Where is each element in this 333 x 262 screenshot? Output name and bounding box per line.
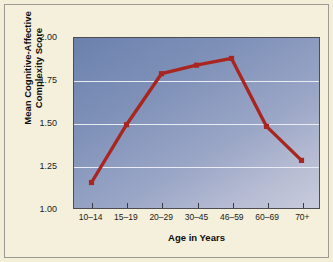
x-tick-mark [127,203,128,208]
x-tick-label: 10–14 [79,212,103,222]
x-tick-mark [92,203,93,208]
data-point-marker [299,158,304,163]
x-tick-mark [233,203,234,208]
data-point-marker [89,180,94,185]
data-point-marker [229,56,234,61]
x-tick-mark [198,203,199,208]
y-axis-title-line1: Mean Cognitive-Affective [22,11,33,125]
y-axis-title-line2: Complexity Score [33,0,44,143]
y-tick-label: 1.00 [17,204,57,214]
data-point-marker [264,124,269,129]
x-tick-mark [303,203,304,208]
series-markers [89,56,304,185]
data-point-marker [124,122,129,127]
line-series-svg [74,38,319,208]
plot-area [73,37,320,209]
x-axis-title: Age in Years [73,232,320,243]
x-tick-label: 60–69 [255,212,279,222]
x-tick-label: 20–29 [149,212,173,222]
x-tick-label: 46–59 [220,212,244,222]
data-point-marker [194,63,199,68]
y-axis-title: Mean Cognitive-Affective Complexity Scor… [22,0,44,143]
y-tick-label: 1.25 [17,161,57,171]
x-tick-mark [162,203,163,208]
x-tick-mark [268,203,269,208]
x-tick-label: 70+ [295,212,309,222]
data-point-marker [159,71,164,76]
series-line [91,58,301,182]
x-tick-label: 30–45 [185,212,209,222]
figure-container: 2.00 1.75 1.50 1.25 1.00 10–1415–1920–29… [0,0,333,262]
figure-frame: 2.00 1.75 1.50 1.25 1.00 10–1415–1920–29… [4,4,329,258]
x-tick-label: 15–19 [114,212,138,222]
